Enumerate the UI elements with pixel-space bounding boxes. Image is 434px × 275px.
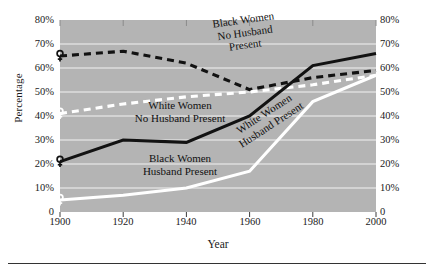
y-tick-left-30: 30%: [35, 134, 54, 146]
y-tick-left-70: 70%: [35, 38, 54, 50]
y-axis-label: Percentage: [12, 53, 24, 143]
annotation-white-women-no-husband: White Women No Husband Present: [100, 99, 260, 124]
y-tick-right-50: 50%: [380, 86, 399, 98]
x-tick-1900: 1900: [35, 216, 85, 227]
footer-rule: [8, 263, 426, 264]
y-tick-left-60: 60%: [35, 62, 54, 74]
y-tick-left-80: 80%: [35, 14, 54, 26]
annotation-line: Husband Present: [105, 165, 255, 178]
x-tick-1980: 1980: [288, 216, 338, 227]
y-tick-left-40: 40%: [35, 110, 54, 122]
y-tick-right-60: 60%: [380, 62, 399, 74]
y-tick-right-40: 40%: [380, 110, 399, 122]
x-tick-1920: 1920: [98, 216, 148, 227]
chart-figure: 80% 70% 60% 50% 40% 30% 20% 10% 0 80% 70…: [0, 0, 434, 275]
x-tick-2000: 2000: [351, 216, 401, 227]
y-tick-left-10: 10%: [35, 182, 54, 194]
y-tick-right-10: 10%: [380, 182, 399, 194]
y-tick-right-80: 80%: [380, 14, 399, 26]
x-tick-1960: 1960: [225, 216, 275, 227]
annotation-line: White Women: [100, 99, 260, 112]
y-tick-left-20: 20%: [35, 158, 54, 170]
y-tick-right-70: 70%: [380, 38, 399, 50]
y-tick-right-20: 20%: [380, 158, 399, 170]
y-tick-right-30: 30%: [380, 134, 399, 146]
annotation-line: No Husband Present: [100, 112, 260, 125]
x-tick-1940: 1940: [161, 216, 211, 227]
x-axis-label: Year: [60, 238, 376, 250]
y-tick-left-50: 50%: [35, 86, 54, 98]
